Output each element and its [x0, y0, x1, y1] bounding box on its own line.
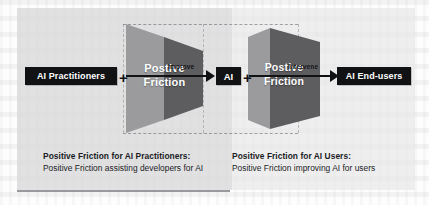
caption-users: Positive Friction for AI Users: Positive… [232, 150, 417, 174]
caption-users-title: Positive Friction for AI Users: [232, 150, 417, 162]
node-ai-practitioners: AI Practitioners [25, 67, 117, 85]
caption-practitioners: Positive Friction for AI Practitioners: … [43, 150, 228, 174]
caption-users-body: Positive Friction improving AI for users [232, 162, 417, 174]
positive-friction-funnel-1: Postive Friction [126, 24, 203, 133]
node-ai: AI [216, 67, 241, 85]
arrow-improve-head [206, 70, 215, 82]
guide-line-bottom [123, 133, 298, 134]
arrow-improve-shaft [126, 75, 210, 77]
arrow-intervene-label: Intervene [288, 63, 318, 70]
arrow-intervene-shaft [249, 75, 335, 77]
caption-practitioners-body: Positive Friction assisting developers f… [43, 162, 228, 174]
positive-friction-funnel-2: Postive Friction [248, 24, 320, 133]
caption-practitioners-title: Positive Friction for AI Practitioners: [43, 150, 228, 162]
plus-operator-1: + [119, 70, 128, 85]
plus-operator-2: + [243, 70, 252, 85]
node-ai-end-users: AI End-users [337, 67, 411, 85]
figure-canvas: Postive Friction Postive Friction Improv… [0, 0, 429, 205]
figure-bottom-rule [17, 190, 230, 192]
guide-line-vertical-2 [203, 24, 204, 133]
arrow-improve-label: Improve [168, 63, 194, 70]
